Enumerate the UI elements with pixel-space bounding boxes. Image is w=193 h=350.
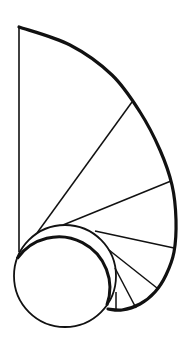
tangent-ray-1 (37, 102, 132, 233)
tangent-ray-2 (63, 181, 171, 225)
tangent-ray-5 (115, 268, 136, 308)
base-circle (14, 225, 116, 327)
outer-spiral-curve (19, 27, 176, 310)
circle-upper-arc (17, 237, 110, 305)
spiral-diagram (0, 0, 193, 350)
